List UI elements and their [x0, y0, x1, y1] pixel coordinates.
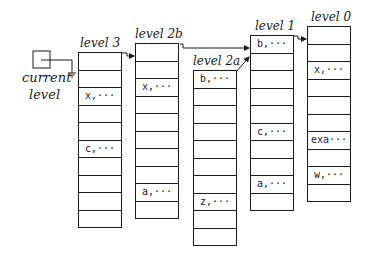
stack-cell: [251, 159, 293, 177]
stack-cell: [194, 211, 236, 229]
stack-cell: [194, 106, 236, 124]
level-2b-stack: x,··· a,···: [135, 43, 179, 219]
stack-cell: [136, 202, 178, 220]
stack-cell: [79, 211, 121, 229]
stack-cell: [308, 150, 350, 168]
stack-cell: w,···: [308, 167, 350, 185]
stack-cell: x,···: [79, 88, 121, 106]
stack-cell: exa···: [308, 132, 350, 150]
level-2b-label: level 2b: [135, 27, 183, 41]
level-0-stack: x,··· exa··· w,···: [307, 26, 351, 202]
stack-cell: [136, 132, 178, 150]
level-3-label: level 3: [80, 36, 120, 50]
stack-cell: b,···: [251, 36, 293, 54]
stack-cell: [251, 71, 293, 89]
stack-cell: z,···: [194, 194, 236, 212]
stack-cell: [251, 54, 293, 72]
stack-cell: [194, 229, 236, 247]
stack-cell: [79, 106, 121, 124]
stack-cell: [308, 80, 350, 98]
stack-cell: [308, 185, 350, 203]
stack-cell: [251, 89, 293, 107]
stack-cell: [79, 71, 121, 89]
stack-cell: [136, 62, 178, 80]
stack-cell: [308, 115, 350, 133]
stack-cell: c,···: [251, 124, 293, 142]
level-1-stack: b,··· c,··· a,···: [250, 35, 294, 211]
stack-cell: [251, 194, 293, 212]
level-3-stack: x,··· c,···: [78, 52, 122, 228]
stack-cell: [136, 97, 178, 115]
stack-cell: a,···: [136, 184, 178, 202]
level-2a-label: level 2a: [193, 54, 240, 68]
stack-cell: [308, 27, 350, 45]
stack-cell: a,···: [251, 176, 293, 194]
stack-cell: [136, 114, 178, 132]
stack-cell: [194, 124, 236, 142]
stack-cell: [251, 106, 293, 124]
stack-cell: x,···: [136, 79, 178, 97]
stack-cell: [194, 159, 236, 177]
stack-cell: [136, 44, 178, 62]
stack-cell: x,···: [308, 62, 350, 80]
stack-cell: [79, 123, 121, 141]
stack-cell: [194, 176, 236, 194]
stack-cell: [308, 97, 350, 115]
stack-cell: [308, 45, 350, 63]
level-1-label: level 1: [255, 19, 295, 33]
stack-cell: [79, 176, 121, 194]
level-2a-stack: b,··· z,···: [193, 70, 237, 246]
stack-cell: [79, 53, 121, 71]
stack-cell: [194, 89, 236, 107]
stack-cell: c,···: [79, 141, 121, 159]
level-0-label: level 0: [311, 10, 351, 24]
stack-cell: [251, 141, 293, 159]
stack-cell: [79, 158, 121, 176]
stack-cell: [136, 149, 178, 167]
stack-cell: [136, 167, 178, 185]
current-level-label-line2: level: [29, 87, 60, 102]
current-level-label-line1: current: [22, 70, 71, 85]
stack-cell: b,···: [194, 71, 236, 89]
stack-cell: [194, 141, 236, 159]
stack-cell: [79, 193, 121, 211]
